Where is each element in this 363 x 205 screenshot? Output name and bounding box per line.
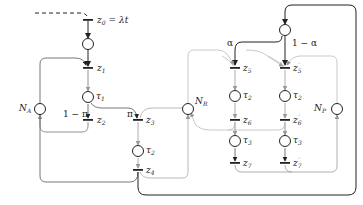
- label-z2: z2: [96, 115, 106, 126]
- label-z6p: z6′: [292, 113, 302, 126]
- place-tau3-b: [280, 136, 291, 147]
- transition-z6p: [280, 119, 290, 121]
- transition-z3: [133, 119, 143, 121]
- arc-nr-z5p: [246, 50, 283, 66]
- transition-z5p: [280, 67, 290, 69]
- arc-z4-na: [40, 115, 138, 182]
- petri-net-diagram: z0= λt z1 τ1 z2 1 − π π z3 τ2 z4 NA NR N…: [0, 0, 363, 205]
- place-tau3-a: [230, 136, 241, 147]
- place-np: [332, 104, 343, 115]
- label-tau2-a: τ2: [243, 90, 252, 101]
- label-pi: π: [127, 109, 133, 119]
- label-z7: z7: [242, 158, 252, 169]
- transition-z5: [230, 67, 240, 69]
- arrival-arc: [35, 13, 88, 20]
- place-arrival: [83, 39, 94, 50]
- transition-z4: [133, 169, 143, 171]
- label-z1: z1: [96, 63, 106, 74]
- label-z0: z0= λt: [96, 15, 129, 26]
- place-na: [35, 104, 46, 115]
- transition-z6: [230, 119, 240, 121]
- place-tau2-a: [230, 91, 241, 102]
- label-tau1: τ1: [96, 91, 105, 102]
- label-z4: z4: [145, 165, 155, 176]
- transition-z0: [83, 19, 93, 21]
- label-z5p: z5′: [292, 61, 302, 74]
- label-z3: z3: [145, 115, 155, 126]
- arc-extra-z5p: [268, 56, 284, 66]
- label-tau3-a: τ3: [243, 135, 252, 146]
- label-tau2-b: τ2: [293, 90, 302, 101]
- label-tau2-left: τ2: [146, 145, 155, 156]
- place-top: [280, 25, 291, 36]
- label-tau3-b: τ3: [293, 135, 302, 146]
- transition-z7p: [280, 162, 290, 164]
- transition-z7: [230, 162, 240, 164]
- arc-z6-nr: [191, 113, 285, 130]
- place-tau2-left: [133, 146, 144, 157]
- label-alpha: α: [227, 38, 233, 48]
- label-np: NP: [313, 103, 327, 114]
- arc-na-z1: [40, 58, 86, 103]
- place-nr: [183, 104, 194, 115]
- place-tau2-b: [280, 91, 291, 102]
- label-z7p: z7′: [292, 156, 302, 169]
- transition-z1: [83, 67, 93, 69]
- label-na: NA: [18, 103, 32, 114]
- label-one-minus-pi: 1 − π: [63, 109, 88, 119]
- transition-z2: [83, 119, 93, 121]
- arc-np-z5: [222, 56, 234, 66]
- label-z6: z6: [242, 115, 252, 126]
- label-nr: NR: [194, 96, 208, 107]
- label-z5: z5: [242, 63, 252, 74]
- label-one-minus-alpha: 1 − α: [292, 38, 317, 48]
- place-tau1: [83, 92, 94, 103]
